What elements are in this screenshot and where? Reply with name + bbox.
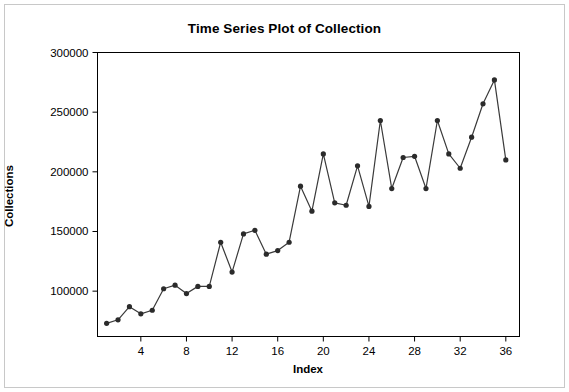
data-point-marker [172,283,177,288]
data-point-marker [207,284,212,289]
plot-canvas [0,0,569,392]
data-point-marker [435,118,440,123]
data-point-marker [458,166,463,171]
data-point-marker [321,151,326,156]
data-point-marker [344,203,349,208]
data-point-marker [275,248,280,253]
data-point-marker [264,252,269,257]
data-point-marker [503,157,508,162]
y-tick-marks [93,53,98,292]
data-point-marker [366,204,371,209]
data-point-marker [332,200,337,205]
data-point-marker [446,151,451,156]
data-point-marker [355,163,360,168]
data-point-marker [378,118,383,123]
data-point-marker [287,240,292,245]
data-point-marker [115,317,120,322]
data-point-marker [401,155,406,160]
data-point-marker [480,101,485,106]
data-point-marker [423,186,428,191]
data-point-marker [218,240,223,245]
data-point-marker [252,228,257,233]
data-point-marker [229,269,234,274]
data-point-marker [138,311,143,316]
data-point-marker [161,286,166,291]
data-point-marker [150,308,155,313]
data-point-marker [104,321,109,326]
data-point-marker [412,154,417,159]
data-point-marker [469,135,474,140]
data-point-marker [492,77,497,82]
data-point-marker [241,231,246,236]
data-point-marker [184,291,189,296]
chart-figure: Time Series Plot of Collection Collectio… [0,0,569,392]
data-point-marker [298,184,303,189]
data-point-marker [389,186,394,191]
data-point-marker [309,209,314,214]
data-point-marker [195,284,200,289]
x-tick-marks [141,337,506,342]
data-point-marker [127,304,132,309]
